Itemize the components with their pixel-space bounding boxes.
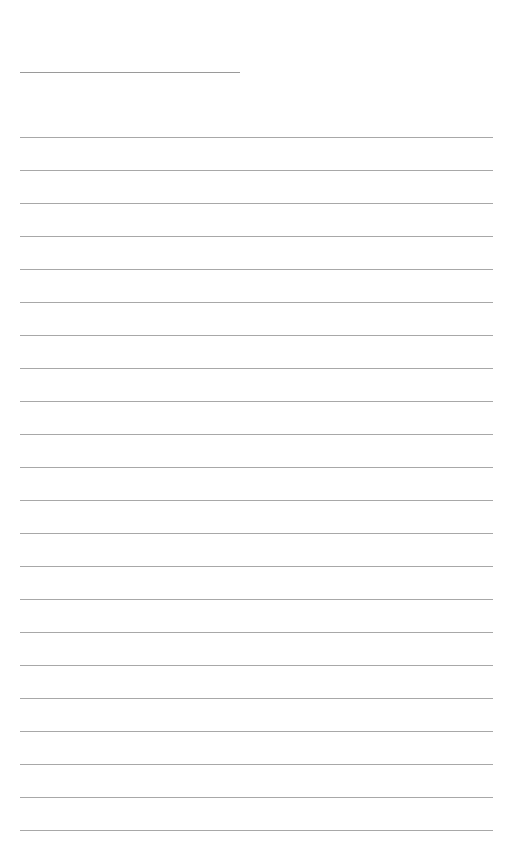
ruled-line	[20, 830, 493, 831]
ruled-line	[20, 302, 493, 303]
ruled-line	[20, 236, 493, 237]
ruled-line	[20, 335, 493, 336]
ruled-line	[20, 467, 493, 468]
ruled-line	[20, 137, 493, 138]
title-line	[20, 72, 240, 73]
ruled-line	[20, 665, 493, 666]
ruled-line	[20, 368, 493, 369]
ruled-line	[20, 731, 493, 732]
ruled-line	[20, 434, 493, 435]
ruled-line	[20, 533, 493, 534]
ruled-line	[20, 566, 493, 567]
ruled-line	[20, 632, 493, 633]
ruled-line	[20, 269, 493, 270]
ruled-line	[20, 203, 493, 204]
ruled-line	[20, 500, 493, 501]
ruled-line	[20, 764, 493, 765]
ruled-line	[20, 401, 493, 402]
ruled-line	[20, 599, 493, 600]
ruled-line	[20, 797, 493, 798]
ruled-line	[20, 698, 493, 699]
ruled-line	[20, 170, 493, 171]
